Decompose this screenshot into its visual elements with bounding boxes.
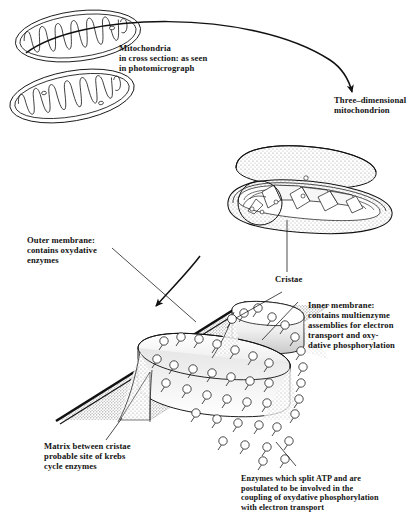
label-outer-membrane: Outer membrane: contains oxydative enzym… [27, 236, 97, 266]
label-cross-section: Mitochondria in cross section: as seen i… [119, 44, 207, 74]
label-three-dimensional: Three–dimensional mitochondrion [334, 96, 406, 116]
magnified-region-circle [238, 181, 282, 225]
arrow-to-magnified-cristae [156, 256, 200, 306]
leader-cristae-lower [236, 292, 282, 318]
label-enzymes: Enzymes which split ATP and are postulat… [241, 474, 379, 512]
leader-matrix [106, 418, 122, 440]
leader-outer-membrane [112, 248, 196, 322]
leader-inner-membrane [262, 302, 298, 340]
leader-enzymes [276, 442, 296, 466]
label-cristae: Cristae [275, 275, 302, 285]
label-matrix: Matrix between cristae probable site of … [44, 442, 131, 472]
atp-synthase-particles [152, 304, 307, 470]
cristae-shelves [262, 185, 363, 213]
label-inner-membrane: Inner membrane: contains multienzyme ass… [308, 301, 395, 351]
mitochondrion-diagram: Mitochondria in cross section: as seen i… [0, 0, 420, 515]
three-dimensional-mitochondrion [228, 146, 392, 234]
